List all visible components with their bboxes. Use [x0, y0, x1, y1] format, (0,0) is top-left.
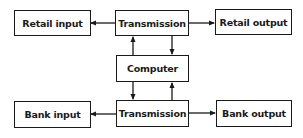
computer-box: Computer [116, 55, 189, 82]
computer-label: Computer [127, 63, 178, 74]
retail-output-label: Retail output [220, 17, 288, 28]
transmission-top-box: Transmission [115, 10, 189, 36]
bank-output-box: Bank output [216, 100, 292, 127]
bank-output-label: Bank output [222, 108, 286, 119]
retail-input-box: Retail input [14, 10, 91, 36]
transmission-top-label: Transmission [118, 18, 186, 29]
retail-input-label: Retail input [22, 18, 82, 29]
transmission-bottom-box: Transmission [116, 100, 189, 127]
bank-input-box: Bank input [14, 101, 91, 128]
retail-output-box: Retail output [215, 9, 292, 35]
transmission-bottom-label: Transmission [119, 108, 187, 119]
bank-input-label: Bank input [24, 109, 80, 120]
